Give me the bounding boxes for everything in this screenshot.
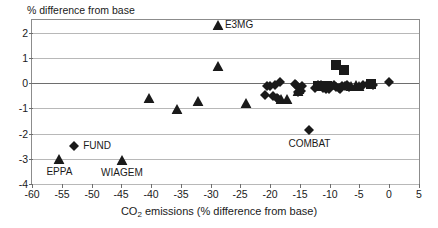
data-point-triangle — [212, 20, 223, 30]
data-point-triangle — [172, 104, 183, 114]
chart-figure: % difference from base 210-1-2-3-4-60-55… — [0, 0, 438, 228]
y-tick-label: -3 — [19, 154, 28, 165]
x-axis-caption: CO2 emissions (% difference from base) — [0, 204, 438, 220]
y-tick-label: -2 — [19, 129, 28, 140]
y-tick-mark — [29, 33, 33, 34]
data-point-triangle — [213, 61, 224, 71]
data-point-square — [366, 79, 376, 89]
x-axis-caption-post: emissions (% difference from base) — [142, 205, 317, 217]
point-annotation: FUND — [83, 140, 111, 151]
data-point-diamond — [273, 94, 283, 104]
x-tick-label: -55 — [54, 189, 69, 200]
data-point-diamond — [297, 81, 307, 91]
x-tick-label: -5 — [354, 189, 363, 200]
x-axis-caption-pre: CO — [121, 205, 138, 217]
data-point-triangle — [192, 96, 203, 106]
data-point-triangle — [144, 93, 155, 103]
x-tick-label: 5 — [416, 189, 422, 200]
data-point-square — [322, 81, 332, 91]
data-point-triangle — [116, 155, 127, 165]
x-tick-label: -25 — [232, 189, 247, 200]
y-tick-label: 1 — [22, 53, 28, 64]
point-annotation: EPPA — [46, 166, 72, 177]
data-point-triangle — [240, 98, 251, 108]
x-tick-label: -30 — [203, 189, 218, 200]
y-tick-label: 0 — [22, 78, 28, 89]
x-tick-label: -45 — [113, 189, 128, 200]
point-annotation: COMBAT — [288, 138, 330, 149]
gridline — [32, 184, 419, 185]
x-tick-label: -10 — [322, 189, 337, 200]
y-tick-mark — [29, 58, 33, 59]
y-tick-mark — [29, 83, 33, 84]
y-tick-mark — [29, 108, 33, 109]
gridline — [32, 33, 419, 34]
x-tick-label: 0 — [386, 189, 392, 200]
point-annotation: E3MG — [225, 19, 253, 30]
data-point-diamond — [304, 125, 314, 135]
y-tick-label: -1 — [19, 103, 28, 114]
gridline — [32, 58, 419, 59]
y-tick-mark — [29, 159, 33, 160]
x-tick-label: -40 — [143, 189, 158, 200]
gridline — [32, 159, 419, 160]
x-tick-label: -20 — [262, 189, 277, 200]
data-point-square — [339, 65, 349, 75]
x-tick-label: -15 — [292, 189, 307, 200]
x-tick-label: -50 — [84, 189, 99, 200]
y-axis-caption: % difference from base — [27, 4, 135, 16]
y-tick-mark — [29, 134, 33, 135]
x-tick-label: -60 — [24, 189, 39, 200]
data-point-diamond — [275, 77, 285, 87]
y-tick-label: 2 — [22, 28, 28, 39]
data-point-square — [313, 81, 323, 91]
clipped-top-strip — [0, 0, 438, 3]
gridline — [32, 108, 419, 109]
x-tick-label: -35 — [173, 189, 188, 200]
data-point-triangle — [54, 154, 65, 164]
point-annotation: WIAGEM — [101, 167, 143, 178]
data-point-diamond — [384, 77, 394, 87]
data-point-diamond — [69, 141, 79, 151]
plot-area: 210-1-2-3-4-60-55-50-45-40-35-30-25-20-1… — [31, 19, 420, 185]
data-point-diamond — [344, 82, 354, 92]
x-axis-caption-subscript: 2 — [137, 210, 141, 219]
gridline — [32, 134, 419, 135]
